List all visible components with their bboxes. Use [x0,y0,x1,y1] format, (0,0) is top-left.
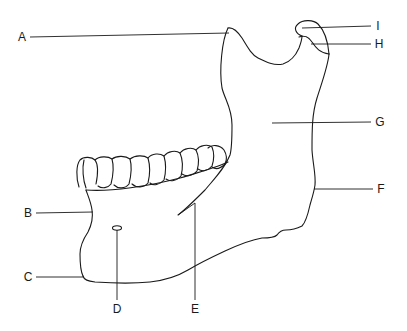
label-I: I [376,20,379,32]
mental-foramen [113,226,122,230]
condyle-head [295,21,329,54]
label-B: B [24,207,32,219]
leader-line-A [30,33,229,37]
label-C: C [24,271,33,283]
posterior-ramus-border [83,54,329,283]
condyle-neck-line [299,36,329,54]
label-E: E [191,303,199,315]
label-A: A [18,31,26,43]
label-H: H [375,38,384,50]
label-G: G [375,116,384,128]
leader-line-B [36,212,93,213]
label-D: D [113,303,122,315]
mandible-outline [178,28,232,215]
chin-border [80,190,92,276]
leader-line-E-tail [178,203,195,215]
label-F: F [377,183,384,195]
mandible-diagram [0,0,407,331]
leader-line-I [302,26,371,28]
leader-line-G [272,122,371,123]
mandibular-notch [228,28,302,65]
teeth [77,145,228,190]
